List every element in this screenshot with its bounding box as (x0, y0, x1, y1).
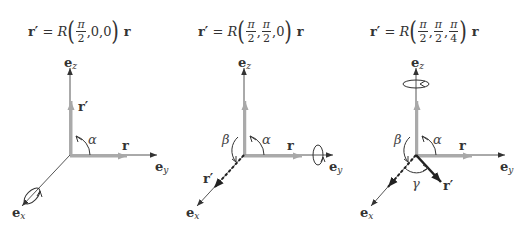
ex-label: ex (360, 206, 373, 221)
r-prime-text: r′ (78, 99, 88, 114)
beta-arc (404, 137, 410, 162)
r-label: r (122, 139, 129, 152)
r-label: r (459, 139, 466, 152)
ez-label: ez (411, 56, 424, 71)
r-text: r (122, 138, 129, 153)
ey-label-sub: y (163, 165, 168, 175)
ez-label: ez (238, 56, 251, 71)
r-text: r (459, 138, 466, 153)
rotation-z-arrowhead (420, 81, 425, 87)
ey-label: ey (500, 160, 513, 175)
ez-label: ez (64, 56, 77, 71)
ex-label: ex (12, 206, 25, 221)
ex-label-sub: x (194, 211, 199, 221)
r-prime-label: r′ (78, 100, 88, 113)
r-prime-vector (214, 155, 244, 188)
ey-label: ey (155, 160, 168, 175)
ez-label-sub: z (72, 61, 77, 71)
ey-label: ey (329, 160, 342, 175)
alpha-label: α (88, 133, 97, 146)
ex-axis (22, 155, 70, 206)
beta-arc (232, 137, 238, 162)
ey-label-sub: y (337, 165, 342, 175)
ex-label: ex (186, 206, 199, 221)
r-prime-text: r′ (203, 171, 213, 186)
ez-label-sub: z (419, 61, 424, 71)
ez-label-sub: z (246, 61, 251, 71)
alpha-label: α (433, 133, 442, 146)
gamma-label: γ (412, 177, 420, 190)
rotation-y-arrowhead (321, 157, 325, 162)
r-prime-text: r′ (443, 178, 453, 193)
beta-label: β (394, 133, 402, 146)
r-label: r (287, 139, 294, 152)
ex-label-sub: x (368, 211, 373, 221)
alpha-label: α (262, 133, 271, 146)
ey-label-sub: y (508, 165, 513, 175)
r-prime-label: r′ (203, 172, 213, 185)
r-text: r (287, 138, 294, 153)
beta-label: β (222, 133, 230, 146)
ex-label-sub: x (20, 211, 25, 221)
r-prime-label: r′ (443, 179, 453, 192)
